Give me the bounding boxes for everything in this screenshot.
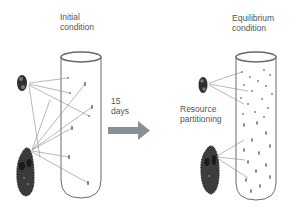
duration-unit: days — [111, 106, 129, 116]
right-arrow-icon — [108, 121, 150, 140]
left-tube-particles — [67, 77, 93, 185]
arrow-duration-label: 15 days — [111, 96, 129, 116]
annotation-line2: partitioning — [180, 114, 222, 124]
right-large-feeding-lines — [217, 140, 248, 178]
equilibrium-title-line2: condition — [232, 23, 274, 33]
left-large-feeding-lines — [32, 84, 92, 183]
small-paramecium-icon-right — [199, 77, 208, 93]
initial-condition-title: Initial condition — [60, 12, 94, 32]
annotation-line1: Resource — [180, 104, 222, 114]
right-small-feeding-lines — [209, 72, 248, 104]
equilibrium-title-line1: Equilibrium — [232, 13, 274, 23]
large-paramecium-icon-right — [201, 146, 219, 194]
initial-title-line1: Initial — [60, 12, 94, 22]
resource-partitioning-label: Resource partitioning — [180, 104, 222, 124]
equilibrium-condition-title: Equilibrium condition — [232, 13, 274, 33]
right-tube-particles — [240, 69, 273, 193]
duration-number: 15 — [111, 96, 129, 106]
small-paramecium-icon — [17, 75, 27, 91]
initial-title-line2: condition — [60, 22, 94, 32]
large-paramecium-icon — [17, 148, 34, 196]
